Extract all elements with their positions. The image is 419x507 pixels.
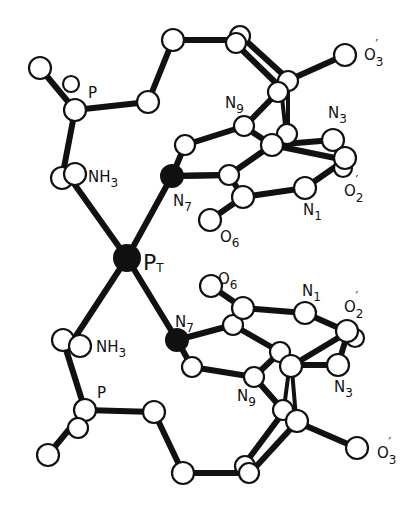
o6-atom: [199, 209, 221, 231]
bottom-n9-label: N9: [237, 387, 256, 409]
top-p-label: P: [88, 84, 97, 102]
top-n7-label: N7: [173, 192, 192, 214]
oxygen-atom: [68, 418, 88, 438]
o3-prime-atom: [346, 437, 368, 459]
c5-atom: [219, 165, 239, 185]
carbon-atom: [143, 401, 165, 423]
n3-atom: [327, 354, 349, 376]
bottom-n1-label: N1: [302, 282, 321, 304]
pt-label: PT: [143, 250, 164, 275]
n7-atom-top: [161, 165, 183, 187]
c2-atom: [336, 320, 358, 342]
carbon-atom: [162, 29, 184, 51]
bottom-o3-label: O3′: [377, 435, 396, 467]
molecular-structure-diagram: PT P NH3 N7 N9 N3 O2′ N1 O6 O3′ N7: [0, 0, 419, 507]
sugar-carbon-atom: [268, 82, 288, 102]
top-nh3-label: NH3: [88, 168, 118, 190]
n1-atom: [294, 302, 316, 324]
top-n1-label: N1: [303, 201, 322, 223]
n9-atom: [234, 116, 254, 136]
o3-prime-atom: [334, 44, 356, 66]
bottom-n3-label: N3: [334, 378, 353, 400]
n7-atom-bottom: [166, 329, 188, 351]
bottom-nh3-label: NH3: [96, 338, 126, 360]
c8-atom: [175, 135, 195, 155]
top-n9-label: N9: [225, 94, 244, 116]
methyl-atom: [37, 444, 59, 466]
sugar-carbon-atom: [286, 410, 308, 432]
carbon-atom: [226, 33, 246, 53]
n9-atom: [244, 367, 264, 387]
top-n3-label: N3: [328, 104, 347, 126]
carbon-atom: [172, 462, 194, 484]
phosphorus-atom: [64, 99, 86, 121]
carbon-atom: [137, 91, 159, 113]
c6-atom: [232, 297, 254, 319]
bottom-p-label: P: [97, 384, 106, 402]
c4-atom: [261, 134, 283, 156]
nh3-nitrogen-atom: [69, 335, 91, 357]
c6-atom: [232, 186, 254, 208]
sugar-carbon-atom: [280, 355, 302, 377]
nh3-nitrogen-atom: [64, 163, 86, 185]
atoms-bottom-ligand: [37, 275, 368, 484]
carbon-atom: [239, 463, 259, 483]
top-o2-label: O2′: [344, 173, 363, 205]
platinum-atom: [114, 245, 140, 271]
bottom-o2-label: O2′: [344, 289, 363, 321]
n1-atom: [294, 177, 316, 199]
top-o6-label: O6: [220, 228, 239, 250]
c2-atom: [334, 147, 356, 169]
methyl-atom: [29, 57, 51, 79]
oxygen-atom: [63, 76, 79, 92]
c8-atom: [182, 357, 202, 377]
top-o3-label: O3′: [364, 37, 383, 69]
